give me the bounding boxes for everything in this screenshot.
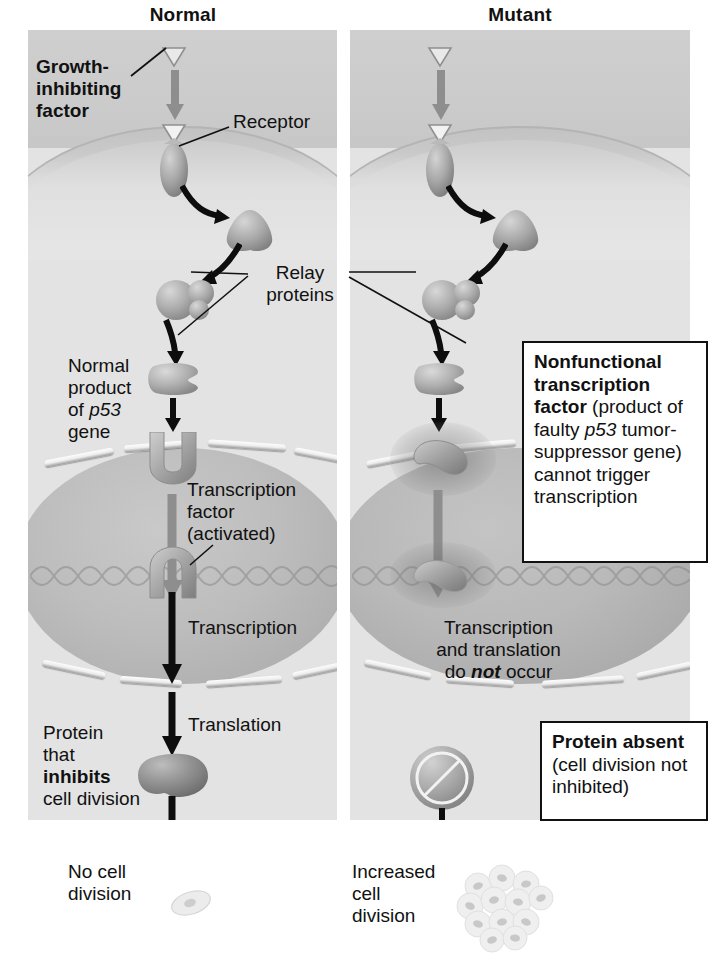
growth-inhibiting-factor-label: Growth- inhibiting factor	[36, 56, 156, 122]
no-cell-division-label: No cell division	[68, 861, 178, 905]
receptor-label: Receptor	[233, 111, 310, 133]
no-transcription-label: Transcription and translation do not occ…	[386, 617, 611, 683]
transcription-factor-label: Transcription factor (activated)	[187, 479, 332, 545]
ligand-binding-arrow	[430, 70, 452, 122]
p53-pathway-figure: Normal Mutant	[0, 0, 717, 956]
p53-product-line3: of p53	[68, 399, 168, 421]
protein-absent-callout: Protein absent (cell division not inhibi…	[540, 721, 708, 821]
transcription-label: Transcription	[188, 617, 297, 639]
relay-protein-icon	[154, 278, 216, 322]
tumor-cell-cluster-icon	[448, 858, 566, 954]
triangle-ligand-icon	[427, 46, 453, 68]
transcription-arrow	[162, 592, 182, 686]
prohibition-circle-icon	[408, 744, 476, 812]
column-title-mutant: Mutant	[350, 4, 690, 26]
p53-product-label: Normal product of p53 gene	[68, 355, 168, 443]
ligand-binding-arrow	[164, 70, 186, 122]
nonfunctional-transcription-factor-icon	[412, 556, 474, 596]
no-transcription-line3: do not occur	[386, 661, 611, 683]
increased-cell-division-label: Increased cell division	[352, 861, 462, 927]
translation-label: Translation	[188, 714, 281, 736]
relay-proteins-label: Relay proteins	[252, 262, 348, 306]
column-title-normal: Normal	[28, 4, 338, 26]
nonfunctional-transcription-factor-icon	[412, 436, 474, 480]
single-cell-icon	[168, 887, 214, 919]
cell-division-arrow	[434, 808, 450, 820]
inhibitor-protein-label: Protein that inhibits cell division	[43, 722, 183, 810]
relay-protein-icon	[420, 278, 482, 322]
triangle-ligand-icon	[161, 46, 187, 68]
nonfunctional-tf-callout: Nonfunctional transcription factor (prod…	[522, 341, 708, 563]
relay-protein-icon	[412, 362, 468, 396]
